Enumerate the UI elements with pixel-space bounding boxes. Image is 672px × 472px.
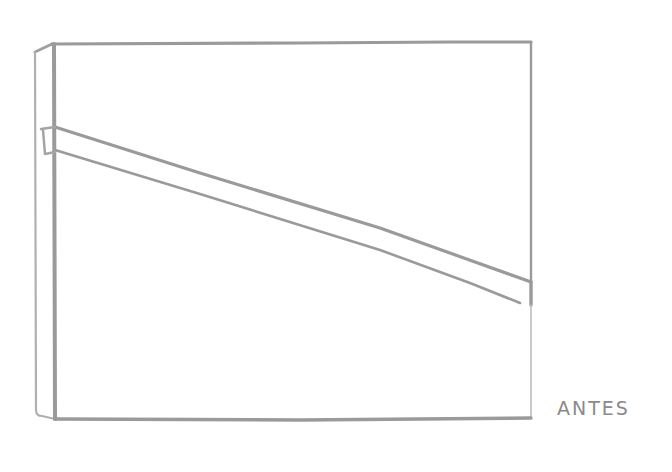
side-panel (35, 44, 55, 419)
before-label: ANTES (557, 397, 630, 419)
diagonal-beam (55, 127, 531, 303)
front-panel (52, 42, 531, 420)
